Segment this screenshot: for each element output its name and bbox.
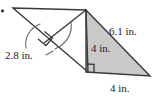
label-height-left: 2.8 in. bbox=[5, 50, 33, 61]
leader-arc-height bbox=[26, 24, 40, 48]
label-hypotenuse: 6.1 in. bbox=[109, 26, 137, 37]
leader-arc-secondary bbox=[55, 22, 71, 49]
leader-tick-height bbox=[46, 51, 53, 55]
geometry-figure: 2.8 in. 4 in. 6.1 in. 4 in. bbox=[0, 0, 157, 99]
altitude-line bbox=[44, 10, 86, 43]
label-vertical-side: 4 in. bbox=[91, 43, 111, 54]
label-base: 4 in. bbox=[110, 83, 130, 94]
bullet-dot-icon bbox=[1, 10, 4, 13]
